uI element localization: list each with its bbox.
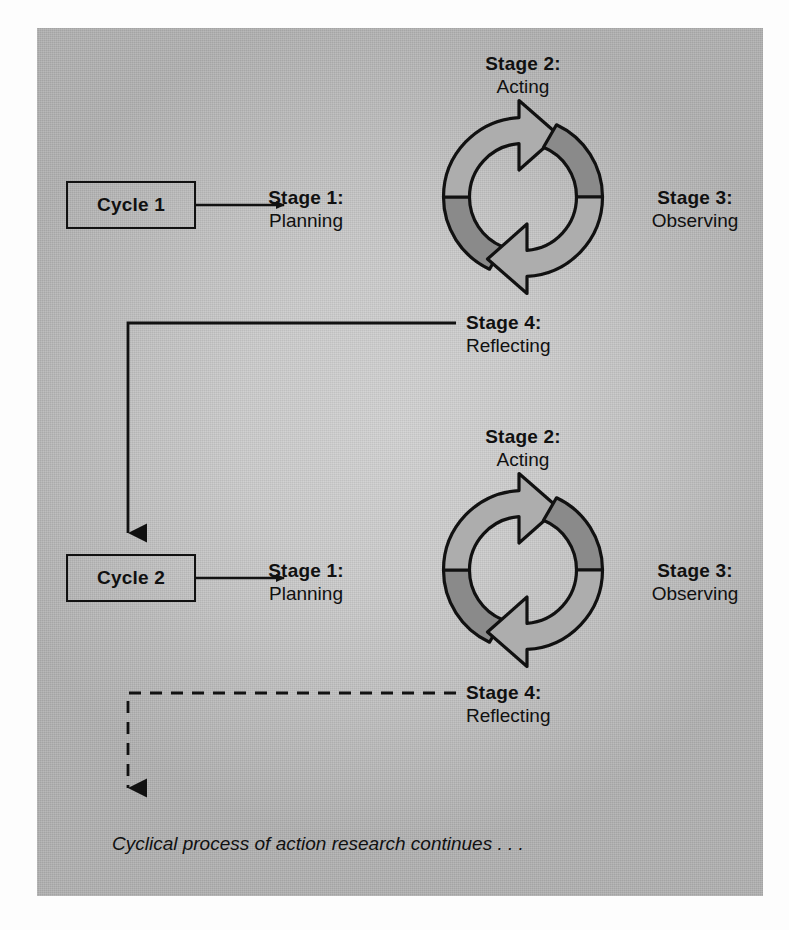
cycle-1-stage-1-number: Stage 1:	[226, 186, 386, 209]
cycle-1-stage-2-label: Stage 2: Acting	[443, 52, 603, 98]
cycle-2-stage-3-number: Stage 3:	[620, 559, 770, 582]
cycle-1-stage-4-number: Stage 4:	[466, 311, 626, 334]
cycle-2-stage-1-name: Planning	[226, 582, 386, 605]
cycle-1-stage-3-name: Observing	[620, 209, 770, 232]
cycle-1-stage-3-label: Stage 3: Observing	[620, 186, 770, 232]
cycle-2-stage-2-number: Stage 2:	[443, 425, 603, 448]
cycle-1-stage-1-name: Planning	[226, 209, 386, 232]
cycle-1-stage-4-name: Reflecting	[466, 334, 626, 357]
figure-page: Cycle 1 Stage 1: Planning Stage 2: Actin…	[0, 0, 789, 930]
cycle-2-stage-2-label: Stage 2: Acting	[443, 425, 603, 471]
cycle-2-stage-4-name: Reflecting	[466, 704, 626, 727]
cycle-1-stage-3-number: Stage 3:	[620, 186, 770, 209]
cycle-1-box[interactable]: Cycle 1	[66, 181, 196, 229]
cycle-1-stage-1-label: Stage 1: Planning	[226, 186, 386, 232]
cycle-2-stage-2-name: Acting	[443, 448, 603, 471]
cycle-2-stage-4-number: Stage 4:	[466, 681, 626, 704]
cycle-2-stage-1-number: Stage 1:	[226, 559, 386, 582]
cycle-1-stage-4-label: Stage 4: Reflecting	[466, 311, 626, 357]
cycle-2-box[interactable]: Cycle 2	[66, 554, 196, 602]
cycle-1-stage-2-name: Acting	[443, 75, 603, 98]
cycle-2-label: Cycle 2	[97, 567, 165, 589]
cycle-2-stage-1-label: Stage 1: Planning	[226, 559, 386, 605]
diagram-text-layer: Cycle 1 Stage 1: Planning Stage 2: Actin…	[0, 0, 789, 930]
cycle-1-label: Cycle 1	[97, 194, 165, 216]
cycle-2-stage-3-name: Observing	[620, 582, 770, 605]
continuation-caption: Cyclical process of action research cont…	[112, 833, 524, 855]
cycle-2-stage-3-label: Stage 3: Observing	[620, 559, 770, 605]
cycle-1-stage-2-number: Stage 2:	[443, 52, 603, 75]
cycle-2-stage-4-label: Stage 4: Reflecting	[466, 681, 626, 727]
